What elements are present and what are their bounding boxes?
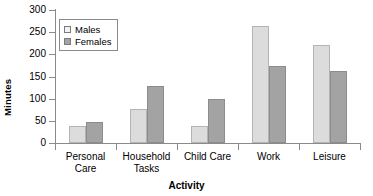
- bar-males-child-care: [191, 126, 208, 143]
- legend-item-females: Females: [64, 35, 111, 47]
- y-tick-label: 50: [16, 116, 46, 126]
- legend: Males Females: [59, 19, 118, 51]
- legend-label-males: Males: [75, 24, 100, 35]
- bar-males-personal-care: [69, 126, 86, 143]
- y-tick-mark: [49, 32, 55, 33]
- y-tick-mark: [49, 10, 55, 11]
- bar-females-personal-care: [86, 122, 103, 143]
- x-axis-title: Activity: [0, 180, 373, 191]
- y-tick-label: 200: [16, 49, 46, 59]
- x-tick-mark: [299, 144, 300, 150]
- bar-females-leisure: [330, 71, 347, 143]
- y-tick-label: 100: [16, 94, 46, 104]
- bar-females-child-care: [208, 99, 225, 143]
- bar-group: [252, 10, 286, 143]
- bar-group: [130, 10, 164, 143]
- x-category-label: Leisure: [299, 151, 360, 163]
- legend-item-males: Males: [64, 23, 111, 35]
- legend-swatch-males-icon: [64, 26, 71, 33]
- bar-females-work: [269, 66, 286, 143]
- legend-label-females: Females: [75, 36, 111, 47]
- x-tick-mark: [360, 144, 361, 150]
- x-tick-mark: [55, 144, 56, 150]
- bar-females-household-tasks: [147, 86, 164, 143]
- x-category-label: HouseholdTasks: [116, 151, 177, 174]
- y-tick-label: 300: [16, 5, 46, 15]
- x-category-label: Child Care: [177, 151, 238, 163]
- x-axis-line: [55, 143, 361, 144]
- bar-group: [313, 10, 347, 143]
- y-tick-label: 150: [16, 72, 46, 82]
- y-tick-mark: [49, 99, 55, 100]
- bar-group: [191, 10, 225, 143]
- x-category-label: PersonalCare: [55, 151, 116, 174]
- bar-males-leisure: [313, 45, 330, 143]
- x-tick-mark: [177, 144, 178, 150]
- y-tick-mark: [49, 77, 55, 78]
- x-category-label: Work: [238, 151, 299, 163]
- bar-males-household-tasks: [130, 109, 147, 143]
- y-tick-mark: [49, 54, 55, 55]
- y-tick-mark: [49, 121, 55, 122]
- y-tick-label: 0: [16, 138, 46, 148]
- y-tick-label: 250: [16, 27, 46, 37]
- bar-chart: Minutes 050100150200250300 PersonalCareH…: [0, 0, 373, 196]
- y-axis-title: Minutes: [0, 52, 14, 142]
- x-tick-mark: [116, 144, 117, 150]
- x-tick-mark: [238, 144, 239, 150]
- bar-males-work: [252, 26, 269, 143]
- y-axis-line: [55, 9, 56, 144]
- legend-swatch-females-icon: [64, 38, 71, 45]
